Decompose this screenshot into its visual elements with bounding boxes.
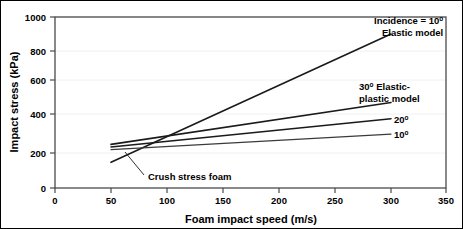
svg-text:Incidence = 10o: Incidence = 10o bbox=[374, 15, 443, 27]
annotation-elastic-model-text: Elastic model bbox=[382, 27, 443, 38]
x-tick-label-100: 100 bbox=[159, 195, 175, 206]
x-axis-ticks bbox=[55, 188, 446, 193]
annotation-10deg-degree-sup: o bbox=[405, 129, 409, 136]
annotation-label-10deg: 10o bbox=[394, 129, 409, 141]
annotation-incidence-text: Incidence = 10 bbox=[374, 15, 439, 26]
annotation-plastic-model-text: plastic model bbox=[359, 93, 420, 104]
annotation-crush-stress-foam: Crush stress foam bbox=[125, 152, 231, 182]
x-tick-label-150: 150 bbox=[215, 195, 231, 206]
x-tick-labels: 0 50 100 150 200 250 300 350 bbox=[52, 195, 454, 206]
annotation-incidence-degree-sup: o bbox=[439, 15, 443, 22]
figure-container: 1000 800 600 400 200 0 0 50 100 150 200 … bbox=[0, 0, 463, 229]
y-tick-label-400: 400 bbox=[30, 109, 46, 120]
y-axis-title: Impact stress (kPa) bbox=[8, 51, 20, 152]
x-tick-label-50: 50 bbox=[106, 195, 117, 206]
series-group bbox=[111, 34, 391, 162]
x-tick-label-0: 0 bbox=[52, 195, 57, 206]
annotation-30deg-rest: Elastic- bbox=[374, 81, 410, 92]
annotation-30deg-text: 30 bbox=[359, 81, 370, 92]
x-axis-title: Foam impact speed (m/s) bbox=[185, 213, 317, 225]
annotation-elastic-plastic-30: 30o Elastic- plastic model bbox=[359, 81, 420, 105]
annotation-20deg-text: 20 bbox=[394, 114, 405, 125]
annotation-incidence-elastic: Incidence = 10o Elastic model bbox=[374, 15, 443, 39]
x-tick-label-300: 300 bbox=[383, 195, 399, 206]
annotation-label-20deg: 20o bbox=[394, 114, 409, 126]
x-tick-label-350: 350 bbox=[438, 195, 454, 206]
annotation-crush-stress-text: Crush stress foam bbox=[148, 171, 231, 182]
crush-stress-leader-line bbox=[125, 152, 144, 175]
x-tick-label-250: 250 bbox=[327, 195, 343, 206]
x-tick-label-200: 200 bbox=[271, 195, 287, 206]
annotation-10deg-text: 10 bbox=[394, 129, 405, 140]
y-tick-labels: 1000 800 600 400 200 0 bbox=[25, 12, 46, 194]
y-tick-label-200: 200 bbox=[30, 148, 46, 159]
y-tick-label-0: 0 bbox=[41, 183, 46, 194]
y-axis-ticks bbox=[50, 17, 55, 188]
line-chart: 1000 800 600 400 200 0 0 50 100 150 200 … bbox=[1, 1, 463, 229]
series-line-10-deg bbox=[111, 134, 391, 150]
svg-text:30o Elastic-: 30o Elastic- bbox=[359, 81, 410, 93]
annotation-20deg-degree-sup: o bbox=[405, 114, 409, 121]
y-tick-label-1000: 1000 bbox=[25, 12, 46, 23]
y-tick-label-600: 600 bbox=[30, 75, 46, 86]
y-tick-label-800: 800 bbox=[30, 46, 46, 57]
